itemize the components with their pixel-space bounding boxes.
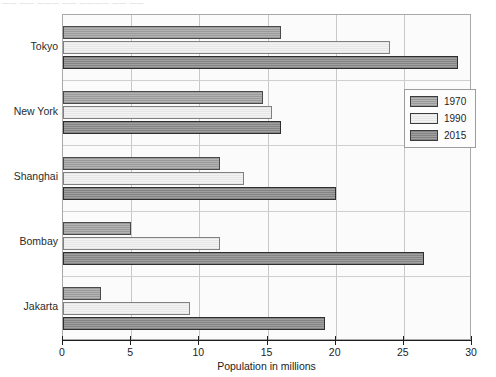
bar-new-york-1990	[63, 106, 272, 119]
legend-item-2015: 2015	[410, 128, 470, 142]
bar-shanghai-1970	[63, 157, 220, 170]
bar-bombay-1970	[63, 222, 131, 235]
category-separator	[63, 211, 470, 212]
legend-item-1970: 1970	[410, 94, 470, 108]
bar-new-york-2015	[63, 121, 281, 134]
x-ticklabel-25: 25	[397, 346, 409, 358]
x-tick-20	[335, 336, 336, 345]
y-axis-label-bombay: Bombay	[2, 235, 58, 247]
plot-inner	[63, 15, 470, 339]
bar-jakarta-1970	[63, 287, 101, 300]
x-ticklabel-5: 5	[127, 346, 133, 358]
x-axis-title: Population in millions	[62, 360, 471, 372]
legend-swatch-2015	[410, 130, 438, 141]
x-ticklabel-30: 30	[465, 346, 477, 358]
y-axis-label-jakarta: Jakarta	[2, 300, 58, 312]
x-tick-10	[198, 336, 199, 345]
bar-bombay-1990	[63, 237, 220, 250]
bar-tokyo-1970	[63, 26, 281, 39]
bar-bombay-2015	[63, 252, 424, 265]
legend-swatch-1990	[410, 113, 438, 124]
legend-label-2015: 2015	[444, 130, 466, 141]
plot-area	[62, 14, 471, 340]
bar-shanghai-1990	[63, 172, 244, 185]
bar-shanghai-2015	[63, 187, 336, 200]
bar-chart: —— —— ——— —— ———— —— —— TokyoNew YorkSha…	[0, 0, 496, 377]
y-axis-label-new-york: New York	[2, 105, 58, 117]
x-tick-25	[403, 336, 404, 345]
x-ticklabel-20: 20	[329, 346, 341, 358]
bar-tokyo-2015	[63, 56, 458, 69]
legend-label-1970: 1970	[444, 96, 466, 107]
legend-label-1990: 1990	[444, 113, 466, 124]
x-tick-0	[62, 336, 63, 345]
x-tick-5	[130, 336, 131, 345]
bar-tokyo-1990	[63, 41, 390, 54]
legend-item-1990: 1990	[410, 111, 470, 125]
bar-jakarta-2015	[63, 317, 325, 330]
bar-jakarta-1990	[63, 302, 190, 315]
y-axis-label-shanghai: Shanghai	[2, 170, 58, 182]
x-tick-30	[471, 336, 472, 345]
y-axis-label-tokyo: Tokyo	[2, 40, 58, 52]
x-ticklabel-10: 10	[192, 346, 204, 358]
category-separator	[63, 80, 470, 81]
legend-swatch-1970	[410, 96, 438, 107]
x-ticklabel-0: 0	[59, 346, 65, 358]
y-axis-category-labels: TokyoNew YorkShanghaiBombayJakarta	[0, 14, 58, 340]
category-separator	[63, 276, 470, 277]
x-tick-15	[267, 336, 268, 345]
legend: 197019902015	[404, 89, 476, 148]
bar-new-york-1970	[63, 91, 263, 104]
x-ticklabel-15: 15	[261, 346, 273, 358]
scan-top-clipped-text: —— —— ——— —— ———— —— ——	[2, 0, 332, 5]
